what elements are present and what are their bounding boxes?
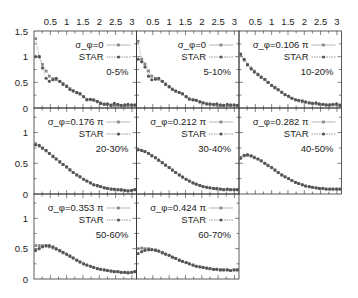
x-tick-label: 1 bbox=[269, 16, 274, 27]
star-point bbox=[106, 187, 109, 190]
star-point bbox=[178, 91, 181, 94]
star-point bbox=[147, 248, 150, 251]
star-point bbox=[328, 103, 331, 106]
star-point bbox=[243, 58, 246, 61]
star-point bbox=[55, 77, 58, 80]
centrality-label: 5-10% bbox=[204, 66, 232, 77]
star-point bbox=[222, 188, 225, 191]
star-point bbox=[191, 98, 194, 101]
star-point bbox=[256, 73, 259, 76]
model-point bbox=[140, 247, 143, 250]
star-point bbox=[318, 102, 321, 105]
legend-star-marker-icon bbox=[117, 132, 120, 135]
star-point bbox=[65, 253, 68, 256]
centrality-label: 20-30% bbox=[96, 143, 129, 154]
legend-star-label: STAR bbox=[181, 128, 206, 139]
star-point bbox=[181, 175, 184, 178]
star-point bbox=[126, 189, 129, 192]
star-point bbox=[287, 177, 290, 180]
star-point bbox=[164, 164, 167, 167]
star-point bbox=[198, 265, 201, 268]
star-point bbox=[226, 103, 229, 106]
star-point bbox=[297, 99, 300, 102]
star-point bbox=[178, 259, 181, 262]
star-point bbox=[273, 168, 276, 171]
y-tick-label: 0.5 bbox=[15, 77, 28, 88]
star-point bbox=[294, 181, 297, 184]
star-point bbox=[301, 183, 304, 186]
star-point bbox=[185, 95, 188, 98]
star-point bbox=[174, 89, 177, 92]
star-point bbox=[123, 103, 126, 106]
star-point bbox=[41, 245, 44, 248]
legend-model-label: σ_φ=0 bbox=[75, 39, 103, 50]
star-point bbox=[150, 248, 153, 251]
star-point bbox=[154, 156, 157, 159]
star-point bbox=[212, 268, 215, 271]
star-point bbox=[92, 183, 95, 186]
x-tick-label: 2 bbox=[97, 16, 102, 27]
star-point bbox=[113, 270, 116, 273]
star-point bbox=[161, 251, 164, 254]
legend-model-marker-icon bbox=[220, 207, 223, 210]
star-line bbox=[138, 250, 237, 271]
star-point bbox=[233, 188, 236, 191]
star-point bbox=[75, 259, 78, 262]
star-point bbox=[266, 81, 269, 84]
star-point bbox=[168, 254, 171, 257]
legend-star-marker-icon bbox=[219, 218, 222, 221]
star-point bbox=[133, 188, 136, 191]
legend-model-marker-icon bbox=[322, 121, 325, 124]
star-point bbox=[311, 186, 314, 189]
star-point bbox=[201, 185, 204, 188]
star-point bbox=[140, 250, 143, 253]
star-point bbox=[328, 187, 331, 190]
star-point bbox=[253, 156, 256, 159]
star-point bbox=[191, 263, 194, 266]
star-point bbox=[61, 251, 64, 254]
star-point bbox=[75, 91, 78, 94]
x-tick-label: 0.5 bbox=[146, 16, 159, 27]
star-point bbox=[287, 95, 290, 98]
star-point bbox=[44, 149, 47, 152]
star-point bbox=[72, 89, 75, 92]
star-point bbox=[38, 247, 41, 250]
star-point bbox=[178, 173, 181, 176]
star-point bbox=[205, 102, 208, 105]
star-point bbox=[208, 186, 211, 189]
centrality-label: 30-40% bbox=[198, 143, 231, 154]
star-point bbox=[72, 171, 75, 174]
star-point bbox=[168, 85, 171, 88]
star-point bbox=[325, 103, 328, 106]
star-point bbox=[130, 271, 133, 274]
star-point bbox=[51, 155, 54, 158]
star-point bbox=[85, 98, 88, 101]
star-point bbox=[68, 254, 71, 257]
x-tick-label: 1 bbox=[166, 16, 171, 27]
star-point bbox=[331, 187, 334, 190]
star-point bbox=[304, 100, 307, 103]
star-point bbox=[260, 159, 263, 162]
y-tick-label: 1.5 bbox=[15, 26, 28, 37]
star-point bbox=[270, 84, 273, 87]
star-point bbox=[123, 189, 126, 192]
centrality-label: 10-20% bbox=[301, 66, 334, 77]
model-point bbox=[137, 247, 140, 250]
star-point bbox=[65, 165, 68, 168]
y-tick-label: 1 bbox=[23, 51, 28, 62]
x-tick-label: 2.5 bbox=[314, 16, 327, 27]
star-point bbox=[188, 98, 191, 101]
star-point bbox=[301, 99, 304, 102]
star-point bbox=[154, 78, 157, 81]
star-point bbox=[314, 186, 317, 189]
star-point bbox=[195, 265, 198, 268]
star-point bbox=[280, 173, 283, 176]
star-point bbox=[226, 268, 229, 271]
star-point bbox=[92, 266, 95, 269]
star-point bbox=[226, 187, 229, 190]
star-point bbox=[137, 252, 140, 255]
star-point bbox=[236, 104, 239, 107]
star-point bbox=[233, 268, 236, 271]
star-point bbox=[89, 98, 92, 101]
star-point bbox=[109, 270, 112, 273]
